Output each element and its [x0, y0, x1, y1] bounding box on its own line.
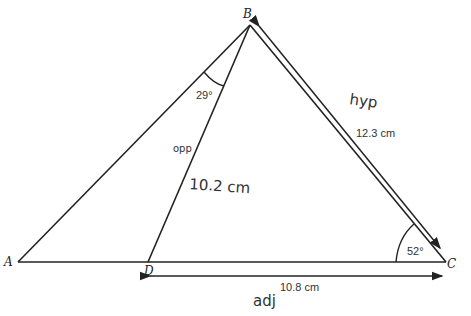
vertex-label-B: B — [242, 7, 252, 21]
side-AB — [18, 25, 250, 262]
vertex-label-C: C — [447, 257, 456, 271]
triangle-diagram: B A C D 29° 52° 12.3 cm 10.8 cm hyp opp … — [0, 0, 471, 316]
bc-length-label: 12.3 cm — [356, 127, 395, 139]
handwritten-bd-length: 10.2 cm — [189, 175, 251, 197]
dc-length-label: 10.8 cm — [280, 281, 319, 293]
side-BC — [250, 25, 446, 262]
vertex-label-A: A — [3, 255, 13, 269]
handwritten-opp: opp — [173, 143, 192, 154]
segment-BD — [148, 25, 250, 262]
angle-label-C: 52° — [407, 245, 424, 257]
angle-arc-B — [204, 72, 224, 86]
handwritten-hyp: hyp — [348, 90, 378, 112]
bc-measure-arrow — [259, 26, 440, 248]
handwritten-adj: adj — [253, 292, 276, 310]
angle-label-B: 29° — [196, 89, 213, 101]
vertex-label-D: D — [143, 264, 154, 278]
